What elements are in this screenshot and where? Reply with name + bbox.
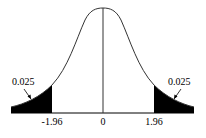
left-tail-region <box>11 85 52 113</box>
right-tail-label: 0.025 <box>168 76 191 87</box>
tick-label-right: 1.96 <box>145 116 163 127</box>
normal-distribution-chart: 0.025 0.025 -1.96 0 1.96 <box>0 0 206 138</box>
left-tail-label: 0.025 <box>12 76 35 87</box>
tick-label-left: -1.96 <box>42 116 63 127</box>
tick-label-center: 0 <box>101 116 106 127</box>
